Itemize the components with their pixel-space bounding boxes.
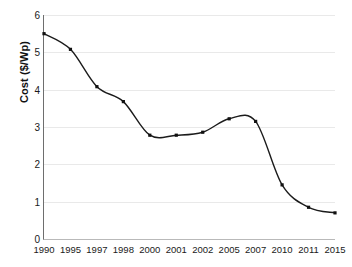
x-tick-label-1998: 1998 xyxy=(113,244,134,255)
series-line xyxy=(44,34,335,213)
y-tick-label-6: 6 xyxy=(20,10,40,21)
y-axis-tick-labels: 0123456 xyxy=(16,15,40,239)
data-point-1997 xyxy=(95,85,98,88)
x-tick-label-2015: 2015 xyxy=(324,244,345,255)
y-tick-label-2: 2 xyxy=(20,159,40,170)
x-tick-label-2000: 2000 xyxy=(139,244,160,255)
x-tick-label-2010: 2010 xyxy=(272,244,293,255)
plot-area xyxy=(44,15,335,239)
x-axis-tick-labels: 1990199519971998200020012002200520072010… xyxy=(44,244,335,260)
gridline-0 xyxy=(44,239,335,240)
data-point-2010 xyxy=(280,183,283,186)
data-point-2011 xyxy=(307,206,310,209)
data-point-2001 xyxy=(175,134,178,137)
x-tick-label-2002: 2002 xyxy=(192,244,213,255)
data-point-1990 xyxy=(42,32,45,35)
x-tick-label-2005: 2005 xyxy=(219,244,240,255)
data-point-2002 xyxy=(201,131,204,134)
x-tick-label-2011: 2011 xyxy=(298,244,318,255)
data-point-2000 xyxy=(148,134,151,137)
line-chart: Cost ($/Wp) 0123456 19901995199719982000… xyxy=(0,0,352,267)
x-tick-label-1990: 1990 xyxy=(33,244,54,255)
data-point-1995 xyxy=(69,48,72,51)
x-tick-label-2001: 2001 xyxy=(166,244,187,255)
y-tick-label-1: 1 xyxy=(20,196,40,207)
data-series-cost xyxy=(44,15,335,239)
data-point-2007 xyxy=(254,120,257,123)
y-tick-label-3: 3 xyxy=(20,122,40,133)
data-point-2015 xyxy=(333,211,336,214)
y-tick-label-4: 4 xyxy=(20,84,40,95)
series-markers xyxy=(42,32,336,214)
y-tick-label-0: 0 xyxy=(20,234,40,245)
x-tick-label-1995: 1995 xyxy=(60,244,81,255)
data-point-2005 xyxy=(228,117,231,120)
x-tick-label-1997: 1997 xyxy=(86,244,107,255)
x-tick-label-2007: 2007 xyxy=(245,244,266,255)
y-tick-label-5: 5 xyxy=(20,47,40,58)
data-point-1998 xyxy=(122,100,125,103)
